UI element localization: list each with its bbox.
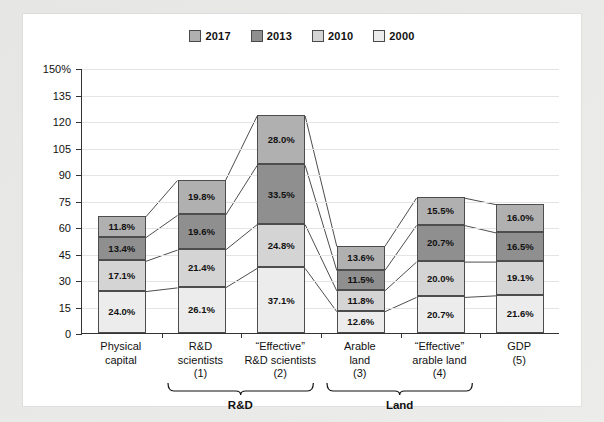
gridline (82, 281, 559, 282)
gridline (82, 96, 559, 97)
group-brace-label: Land (326, 399, 473, 411)
bar-segment-2000[interactable]: 20.7% (417, 296, 465, 333)
gridline (82, 122, 559, 123)
bar-segment-2010[interactable]: 19.1% (496, 261, 544, 295)
y-axis-tick (76, 202, 82, 203)
bar-segment-2010[interactable]: 21.4% (178, 249, 226, 287)
bar-segment-label: 28.0% (268, 134, 295, 145)
connector-line (146, 180, 178, 216)
chart-panel: 2017 2013 2010 2000 01530456075901051201… (23, 14, 581, 406)
bar-segment-2017[interactable]: 11.8% (98, 216, 146, 237)
legend-item-2000: 2000 (373, 30, 414, 42)
x-axis-tick (241, 333, 242, 338)
bar-segment-2000[interactable]: 26.1% (178, 287, 226, 333)
gridline (82, 308, 559, 309)
connector-line (146, 288, 178, 292)
bar-stack[interactable]: 24.0%17.1%13.4%11.8% (98, 216, 146, 333)
x-axis-label-line: scientists (161, 354, 241, 368)
legend-swatch-2000 (373, 30, 385, 42)
bar-segment-2013[interactable]: 20.7% (417, 225, 465, 262)
connector-line (146, 250, 178, 261)
connector-line (226, 268, 258, 287)
bar-segment-label: 19.6% (188, 226, 215, 237)
x-axis-label-line: (3) (320, 367, 400, 381)
x-axis-label-line: arable land (400, 354, 480, 368)
bar-segment-2017[interactable]: 15.5% (417, 197, 465, 224)
legend-swatch-2010 (312, 30, 324, 42)
connector-line (226, 165, 258, 215)
bar-segment-2017[interactable]: 19.8% (178, 180, 226, 215)
y-axis-tick-label: 105 (53, 143, 71, 155)
y-axis-tick-label: 120 (53, 116, 71, 128)
bar-segment-2000[interactable]: 12.6% (337, 311, 385, 333)
bar-segment-label: 21.4% (188, 262, 215, 273)
x-axis-labels: PhysicalcapitalR&Dscientists(1)“Effectiv… (81, 340, 559, 386)
bar-segment-2000[interactable]: 24.0% (98, 291, 146, 333)
y-axis-tick-label: 15 (59, 302, 71, 314)
bar-segment-2013[interactable]: 33.5% (257, 164, 305, 223)
group-brace (326, 382, 473, 396)
bar-segment-2013[interactable]: 16.5% (496, 232, 544, 261)
bar-segment-label: 33.5% (268, 189, 295, 200)
bar-segment-2017[interactable]: 16.0% (496, 204, 544, 232)
x-axis-label-line: R&D scientists (240, 354, 320, 368)
legend-item-2010: 2010 (312, 30, 353, 42)
bar-segment-2010[interactable]: 11.8% (337, 290, 385, 311)
connector-line (146, 215, 178, 237)
x-axis-label-line: “Effective” (400, 340, 480, 354)
bar-segment-2010[interactable]: 17.1% (98, 260, 146, 290)
bar-stack[interactable]: 21.6%19.1%16.5%16.0% (496, 204, 544, 333)
gridline (82, 202, 559, 203)
y-axis-tick (76, 149, 82, 150)
x-axis-label-line: (1) (161, 367, 241, 381)
bar-stack[interactable]: 37.1%24.8%33.5%28.0% (257, 115, 305, 333)
bar-stack[interactable]: 12.6%11.8%11.5%13.6% (337, 246, 385, 333)
legend-swatch-2013 (251, 30, 263, 42)
x-axis-label-line: “Effective” (240, 340, 320, 354)
y-axis-tick (76, 96, 82, 97)
gridline (82, 228, 559, 229)
y-axis-tick (76, 69, 82, 70)
y-axis-tick (76, 308, 82, 309)
x-axis-label-line: land (320, 354, 400, 368)
bar-stack[interactable]: 20.7%20.0%20.7%15.5% (417, 197, 465, 333)
bar-segment-label: 19.1% (507, 272, 534, 283)
bar-segment-2013[interactable]: 11.5% (337, 270, 385, 290)
x-axis-tick (162, 333, 163, 338)
gridline (82, 69, 559, 70)
bar-segment-label: 11.5% (348, 274, 374, 285)
bar-segment-2017[interactable]: 13.6% (337, 246, 385, 270)
y-axis-tick-label: 150% (43, 63, 71, 75)
bar-segment-label: 16.5% (507, 241, 534, 252)
bar-segment-label: 20.0% (427, 273, 454, 284)
bar-segment-2000[interactable]: 37.1% (257, 267, 305, 333)
y-axis-tick-label: 0 (65, 328, 71, 340)
connector-line (465, 226, 497, 233)
chart-legend: 2017 2013 2010 2000 (23, 30, 581, 42)
y-axis-tick (76, 255, 82, 256)
legend-item-2013: 2013 (251, 30, 292, 42)
connector-line (385, 198, 417, 246)
x-axis-category-label: Physicalcapital (81, 340, 161, 367)
x-axis-label-line: R&D (161, 340, 241, 354)
group-brace (167, 382, 314, 396)
bar-segment-2013[interactable]: 13.4% (98, 237, 146, 261)
y-axis-tick (76, 334, 82, 335)
gridline (82, 255, 559, 256)
x-axis-category-label: “Effective”arable land(4) (400, 340, 480, 381)
connector-line (385, 297, 417, 311)
bar-segment-2000[interactable]: 21.6% (496, 295, 544, 333)
bar-segment-2013[interactable]: 19.6% (178, 214, 226, 249)
y-axis-tick (76, 281, 82, 282)
y-axis-tick-label: 60 (59, 222, 71, 234)
bar-segment-2010[interactable]: 20.0% (417, 261, 465, 296)
bar-segment-2017[interactable]: 28.0% (257, 115, 305, 164)
legend-label-2000: 2000 (389, 30, 414, 42)
bar-segment-label: 15.5% (427, 205, 454, 216)
bar-stack[interactable]: 26.1%21.4%19.6%19.8% (178, 179, 226, 333)
bar-segment-label: 20.7% (427, 237, 454, 248)
bar-segment-2010[interactable]: 24.8% (257, 224, 305, 268)
connector-line (465, 296, 497, 298)
x-axis-label-line: Arable (320, 340, 400, 354)
legend-label-2013: 2013 (267, 30, 292, 42)
